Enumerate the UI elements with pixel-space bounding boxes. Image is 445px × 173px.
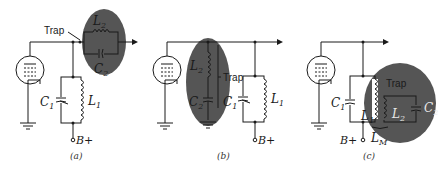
panel-c: Trap C1 L1 L2 C2 LM B+ (c) — [307, 39, 438, 161]
trap-label-a: Trap — [44, 25, 65, 36]
caption-b: (b) — [217, 151, 230, 161]
svg-text:B+: B+ — [257, 134, 275, 147]
svg-text:C1: C1 — [40, 95, 54, 111]
trap-label-c: Trap — [386, 78, 407, 89]
ground-icon — [157, 88, 173, 129]
svg-text:L1: L1 — [87, 94, 101, 110]
vacuum-tube-icon — [307, 56, 335, 88]
caption-a: (a) — [70, 151, 83, 161]
svg-text:C2: C2 — [424, 101, 438, 117]
svg-text:C1: C1 — [223, 95, 237, 111]
svg-text:L1: L1 — [270, 92, 284, 108]
svg-text:B+: B+ — [75, 134, 93, 147]
vacuum-tube-icon — [16, 56, 44, 88]
panel-b: Trap L2 C2 C1 L1 B+ (b) — [153, 38, 284, 161]
circuit-diagram: Trap L2 C2 C1 L1 B+ (a) — [0, 0, 445, 173]
trap-label-b: Trap — [223, 72, 244, 83]
panel-a: Trap L2 C2 C1 L1 B+ (a) — [16, 9, 138, 161]
vacuum-tube-icon — [153, 56, 181, 88]
caption-c: (c) — [363, 151, 376, 161]
svg-text:C1: C1 — [331, 96, 345, 112]
ground-icon — [311, 88, 327, 129]
ground-icon — [20, 88, 36, 129]
svg-text:B+: B+ — [339, 134, 357, 147]
